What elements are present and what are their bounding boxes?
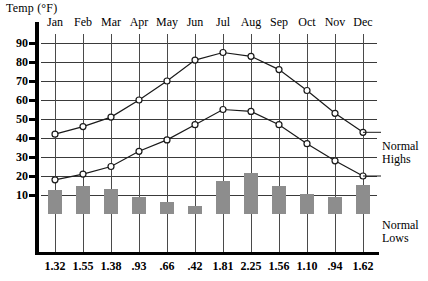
normal-lows-point-may: [164, 137, 170, 143]
month-label-aug: Aug: [241, 15, 262, 30]
legend-normal-lows: Normal Lows: [382, 219, 419, 245]
y-axis-tick-40: [29, 137, 39, 140]
y-axis-tick-label-10: 10: [4, 188, 28, 203]
legend-highs-line2: Highs: [382, 153, 419, 166]
normal-highs-point-jul: [220, 50, 226, 56]
month-label-feb: Feb: [74, 15, 92, 30]
precipitation-label-may: .66: [160, 259, 175, 274]
precipitation-label-feb: 1.55: [73, 259, 94, 274]
y-axis-tick-label-90: 90: [4, 36, 28, 51]
y-axis-tick-label-80: 80: [4, 55, 28, 70]
normal-lows-point-nov: [332, 158, 338, 164]
precipitation-label-sep: 1.56: [269, 259, 290, 274]
y-axis-tick-label-30: 30: [4, 150, 28, 165]
precipitation-label-mar: 1.38: [101, 259, 122, 274]
precipitation-label-nov: .94: [328, 259, 343, 274]
normal-lows-point-jan: [52, 177, 58, 183]
normal-lows-point-jun: [192, 122, 198, 128]
month-label-nov: Nov: [325, 15, 346, 30]
normal-highs-point-nov: [332, 110, 338, 116]
y-axis-tick-80: [29, 61, 39, 64]
normal-highs-polyline: [55, 53, 363, 135]
month-label-jul: Jul: [216, 15, 230, 30]
precipitation-label-jan: 1.32: [45, 259, 66, 274]
month-label-oct: Oct: [298, 15, 315, 30]
normal-lows-point-sep: [276, 122, 282, 128]
normal-lows-point-aug: [248, 108, 254, 114]
plot-area: [41, 34, 377, 252]
y-axis-tick-50: [29, 118, 39, 121]
normal-lows-point-mar: [108, 164, 114, 170]
month-label-dec: Dec: [353, 15, 372, 30]
y-axis-tick-10: [29, 194, 39, 197]
y-axis-label-column: 908070605040302010: [0, 0, 28, 281]
normal-highs-point-may: [164, 78, 170, 84]
month-label-jun: Jun: [187, 15, 204, 30]
y-axis-tick-30: [29, 156, 39, 159]
normal-highs-point-aug: [248, 53, 254, 59]
normal-lows-point-jul: [220, 107, 226, 113]
precipitation-label-row: 1.321.551.38.93.66.421.812.251.561.10.94…: [0, 259, 428, 277]
month-label-sep: Sep: [270, 15, 288, 30]
month-label-row: JanFebMarAprMayJunJulAugSepOctNovDec: [0, 15, 428, 31]
y-axis-tick-label-50: 50: [4, 112, 28, 127]
precipitation-label-dec: 1.62: [353, 259, 374, 274]
precipitation-label-aug: 2.25: [241, 259, 262, 274]
normal-lows-point-apr: [136, 148, 142, 154]
precipitation-label-jun: .42: [188, 259, 203, 274]
normal-highs-point-jun: [192, 57, 198, 63]
precipitation-label-apr: .93: [132, 259, 147, 274]
y-axis-tick-label-70: 70: [4, 74, 28, 89]
y-axis-tick-label-20: 20: [4, 169, 28, 184]
y-axis-tick-90: [29, 42, 39, 45]
month-label-may: May: [156, 15, 178, 30]
normal-lows-point-feb: [80, 171, 86, 177]
y-axis-tick-70: [29, 80, 39, 83]
normal-highs-point-mar: [108, 114, 114, 120]
climate-chart: Temp (°F) JanFebMarAprMayJunJulAugSepOct…: [0, 0, 428, 281]
y-axis-tick-label-60: 60: [4, 93, 28, 108]
normal-lows-point-oct: [304, 141, 310, 147]
month-label-mar: Mar: [101, 15, 121, 30]
month-label-apr: Apr: [130, 15, 149, 30]
normal-highs-point-sep: [276, 67, 282, 73]
precipitation-label-oct: 1.10: [297, 259, 318, 274]
y-axis-tick-20: [29, 175, 39, 178]
legend-normal-highs: Normal Highs: [382, 140, 419, 166]
y-axis-tick-label-40: 40: [4, 131, 28, 146]
x-axis-spine: [35, 252, 379, 255]
normal-highs-point-apr: [136, 97, 142, 103]
normal-highs-point-oct: [304, 88, 310, 94]
normal-highs-point-feb: [80, 124, 86, 130]
temperature-lines: [41, 34, 377, 252]
month-label-jan: Jan: [47, 15, 63, 30]
legend-lows-line2: Lows: [382, 232, 419, 245]
precipitation-label-jul: 1.81: [213, 259, 234, 274]
normal-highs-point-jan: [52, 131, 58, 137]
y-axis-tick-60: [29, 99, 39, 102]
